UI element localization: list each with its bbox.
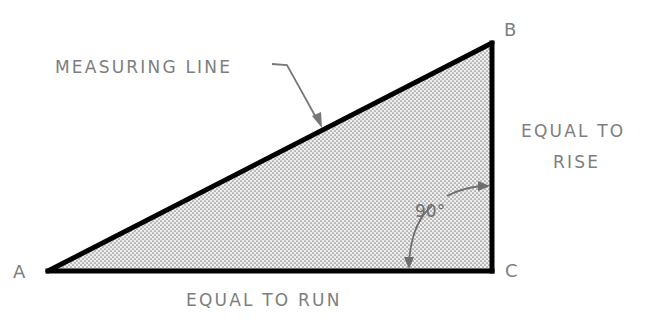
right-angle-label: 90° bbox=[415, 203, 445, 220]
run-label: EQUAL TO RUN bbox=[186, 292, 342, 309]
vertex-label-b: B bbox=[504, 21, 516, 39]
measuring-line-label: MEASURING LINE bbox=[55, 59, 232, 76]
vertex-label-c: C bbox=[505, 262, 518, 280]
vertex-label-a: A bbox=[13, 263, 25, 281]
rise-label-line1: EQUAL TO bbox=[521, 123, 625, 140]
measuring-line-leader bbox=[272, 64, 318, 121]
rise-label-line2: RISE bbox=[553, 154, 600, 171]
